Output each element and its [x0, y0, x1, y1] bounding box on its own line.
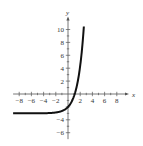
function-curve — [13, 27, 84, 114]
y-tick-label: −4 — [57, 116, 65, 124]
x-tick-label: 4 — [91, 97, 95, 105]
x-axis-arrow-icon — [125, 92, 129, 95]
y-tick-label: 2 — [61, 78, 65, 86]
y-axis-arrow-icon — [66, 17, 69, 21]
chart: −8−6−4−22468−6−4246810 x y — [0, 0, 143, 146]
x-tick-label: −4 — [40, 97, 48, 105]
x-axis-label: x — [131, 91, 136, 99]
x-tick-label: −2 — [52, 97, 60, 105]
x-tick-label: −6 — [28, 97, 36, 105]
y-tick-label: 8 — [61, 39, 65, 47]
y-tick-label: 10 — [57, 26, 65, 34]
y-tick-label: −6 — [57, 129, 65, 137]
y-axis-label: y — [65, 9, 70, 17]
axes — [13, 17, 129, 140]
x-tick-label: 6 — [103, 97, 107, 105]
y-tick-label: 4 — [61, 65, 65, 73]
x-tick-label: 8 — [115, 97, 119, 105]
x-tick-label: −8 — [15, 97, 23, 105]
y-tick-label: 6 — [61, 52, 65, 60]
x-tick-label: 2 — [78, 97, 82, 105]
